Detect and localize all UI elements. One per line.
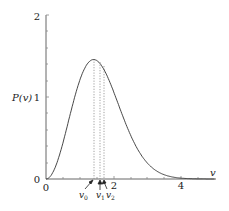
y-tick-label-0: 0 bbox=[34, 174, 40, 185]
y-tick-label-2: 2 bbox=[34, 11, 40, 22]
y-tick-label-1: 1 bbox=[34, 92, 40, 103]
arrows bbox=[85, 180, 107, 190]
v2-arrowhead bbox=[102, 180, 106, 184]
v0-label: v0 bbox=[79, 190, 88, 201]
x-tick-label-4: 4 bbox=[178, 180, 184, 191]
v1-arrowhead bbox=[98, 180, 102, 184]
maxwell-distribution-chart: 2 1 0 P(v) 0 2 4 v v0 v1 v2 bbox=[0, 0, 229, 211]
characteristic-speed-lines bbox=[94, 59, 104, 179]
v1-label: v1 bbox=[96, 190, 105, 201]
v2-label: v2 bbox=[106, 190, 115, 201]
distribution-curve bbox=[46, 60, 215, 179]
x-tick-label-2: 2 bbox=[111, 180, 117, 191]
x-axis-label: v bbox=[210, 167, 216, 178]
y-axis-label: P(v) bbox=[11, 92, 32, 103]
x-tick-label-0: 0 bbox=[43, 182, 49, 193]
